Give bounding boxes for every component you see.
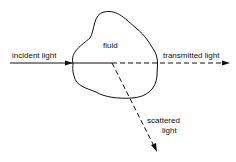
transmitted-arrowhead-icon bbox=[222, 61, 230, 66]
light-scattering-diagram bbox=[0, 0, 236, 162]
scattered-light-ray bbox=[112, 63, 155, 148]
scattered-arrowhead-icon bbox=[151, 143, 157, 152]
fluid-outline bbox=[73, 11, 158, 98]
fluid-label: fluid bbox=[103, 41, 118, 50]
scattered-light-label-line1: scattered bbox=[147, 116, 180, 125]
scattered-light-label-line2: light bbox=[162, 126, 177, 135]
incident-light-label: incident light bbox=[12, 51, 56, 60]
incident-arrowhead-icon bbox=[65, 61, 73, 66]
transmitted-light-label: transmitted light bbox=[163, 51, 219, 60]
